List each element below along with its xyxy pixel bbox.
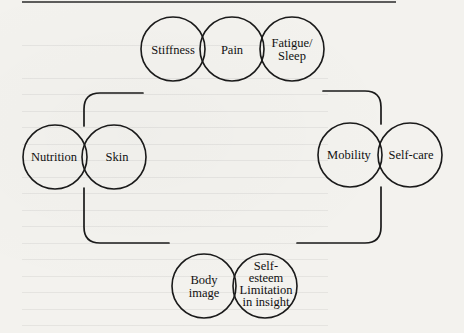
label-fatigue-line2: Sleep [260,50,324,63]
label-fatigue-sleep: Fatigue/ Sleep [260,37,324,63]
bracket-bottom-right [297,187,381,243]
bracket-top-right [323,91,381,124]
label-mobility: Mobility [317,149,381,162]
label-self-care: Self-care [379,149,443,162]
label-stiffness: Stiffness [141,44,205,57]
label-pain-text: Pain [221,43,243,57]
label-stiffness-text: Stiffness [151,43,195,57]
label-self-esteem: Self- esteem Limitation in insight [234,260,298,308]
label-nutrition-text: Nutrition [31,150,77,164]
bracket-top-left [84,93,143,126]
label-pain: Pain [200,44,264,57]
label-skin: Skin [85,151,149,164]
label-self-care-text: Self-care [388,148,433,162]
label-nutrition: Nutrition [22,151,86,164]
label-body-image: Body image [172,274,236,300]
label-skin-text: Skin [106,150,129,164]
label-mobility-text: Mobility [327,148,371,162]
label-body-image-line2: image [172,287,236,300]
bracket-bottom-left [84,188,169,243]
label-self-esteem-line4: in insight [234,296,298,308]
